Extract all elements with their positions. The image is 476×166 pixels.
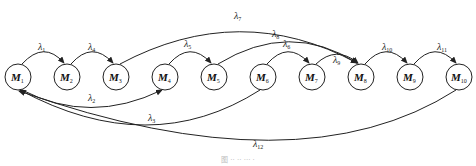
label-lambda3: λ3 <box>147 112 155 124</box>
node-m9: M9 <box>397 64 423 90</box>
label-lambda10: λ10 <box>381 41 392 53</box>
edge-lambda6 <box>267 52 309 64</box>
node-m6: M6 <box>250 64 276 90</box>
edge-lambda3 <box>20 90 260 125</box>
figure-caption: 图 ·· ·· ··· · <box>0 154 476 164</box>
edge-lambda10 <box>365 52 407 64</box>
edge-lambda1 <box>22 52 64 64</box>
label-lambda11: λ11 <box>436 41 447 53</box>
label-lambda1: λ1 <box>37 41 45 53</box>
label-lambda6: λ6 <box>282 38 290 50</box>
state-transition-diagram: λ1 λ4 λ7 λ5 λ8 λ6 λ9 λ10 λ11 λ2 λ3 λ12 M… <box>0 0 476 166</box>
label-lambda8: λ8 <box>271 28 279 40</box>
node-m5: M5 <box>201 64 227 90</box>
edge-lambda12 <box>19 90 456 140</box>
node-m7: M7 <box>299 64 325 90</box>
edge-lambda11 <box>414 52 456 64</box>
node-m10: M10 <box>446 64 472 90</box>
label-lambda4: λ4 <box>87 41 95 53</box>
label-lambda9: λ9 <box>332 54 340 66</box>
label-lambda7: λ7 <box>233 10 241 22</box>
node-m4: M4 <box>152 64 178 90</box>
edge-lambda5 <box>169 52 211 64</box>
edge-lambda4 <box>71 52 113 64</box>
node-m1: M1 <box>5 64 31 90</box>
node-m2: M2 <box>54 64 80 90</box>
label-lambda5: λ5 <box>183 38 191 50</box>
node-m3: M3 <box>103 64 129 90</box>
node-m8: M8 <box>348 64 374 90</box>
label-lambda2: λ2 <box>87 92 95 104</box>
